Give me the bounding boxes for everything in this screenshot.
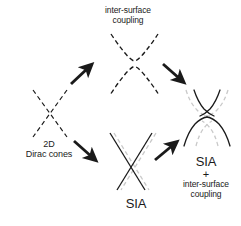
- arrow-dirac-to-coupling: [71, 68, 88, 84]
- arrow-coupling-to-final: [163, 64, 180, 79]
- coupling-label-line2: coupling: [113, 15, 144, 25]
- sia-dark-line-left: [110, 133, 145, 190]
- inter-surface-coupling-panel: [111, 34, 158, 94]
- final-dark-upper-left: [194, 90, 214, 116]
- band-structure-evolution-diagram: inter-surface coupling 2D Dirac cones SI…: [0, 0, 241, 226]
- coupling-label-line1: inter-surface: [105, 5, 151, 15]
- final-label-line4: coupling: [172, 190, 240, 200]
- dirac-label-line2: Dirac cones: [26, 149, 72, 159]
- final-label-line1: SIA: [172, 155, 240, 169]
- arrow-sia-to-final: [155, 145, 173, 160]
- sia-plus-coupling-panel: [184, 90, 230, 146]
- sia-label-text: SIA: [126, 196, 147, 211]
- final-dark-upper-right: [200, 90, 220, 116]
- label-sia: SIA: [106, 197, 166, 212]
- dirac-label-line1: 2D: [43, 139, 54, 149]
- label-2d-dirac-cones: 2D Dirac cones: [4, 139, 94, 159]
- sia-panel: [110, 133, 156, 190]
- coupling-upper-branch: [111, 34, 158, 61]
- final-gray-lower-right: [202, 121, 218, 146]
- label-sia-plus-inter-surface-coupling: SIA + inter-surface coupling: [172, 155, 240, 199]
- label-inter-surface-coupling: inter-surface coupling: [81, 6, 175, 25]
- dirac-cones-panel: [33, 90, 67, 137]
- sia-gray-line-right: [121, 133, 156, 190]
- coupling-lower-branch: [111, 67, 158, 94]
- final-gray-lower-left: [196, 121, 212, 146]
- sia-dark-line-right: [117, 133, 152, 190]
- sia-gray-line-left: [114, 133, 149, 190]
